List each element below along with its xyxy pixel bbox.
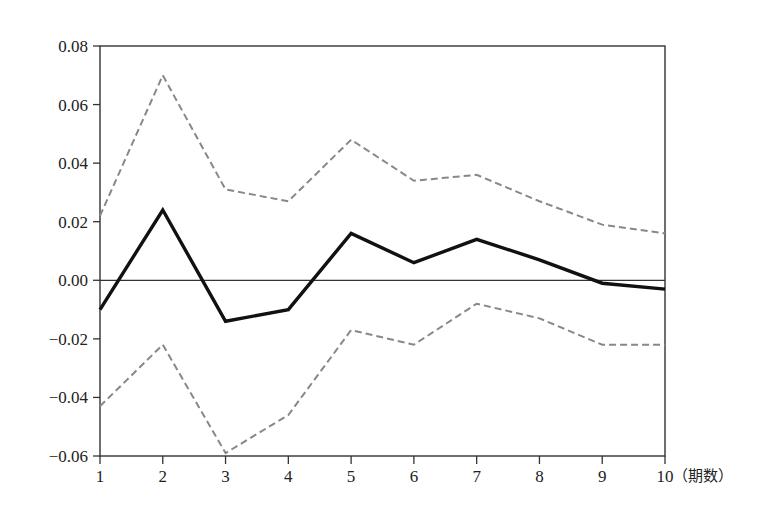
- x-tick-label: 10: [657, 467, 674, 486]
- y-tick-label: 0.00: [58, 271, 88, 290]
- y-tick-label: 0.08: [58, 37, 88, 56]
- x-tick-label: 1: [96, 467, 105, 486]
- series-response: [100, 210, 665, 321]
- series-upper-band: [100, 75, 665, 233]
- y-tick-label: −0.06: [49, 447, 88, 466]
- x-tick-label: 8: [535, 467, 544, 486]
- x-tick-label: 9: [598, 467, 607, 486]
- series-lower-band: [100, 304, 665, 453]
- x-tick-label: 5: [347, 467, 356, 486]
- x-tick-label: 4: [284, 467, 293, 486]
- x-axis-unit-label: （期数）: [673, 467, 733, 485]
- x-tick-label: 2: [159, 467, 168, 486]
- y-axis: 0.080.060.040.020.00−0.02−0.04−0.06: [49, 37, 100, 466]
- y-tick-label: 0.06: [58, 96, 88, 115]
- y-tick-label: 0.04: [58, 154, 88, 173]
- plot-area: [100, 46, 665, 456]
- y-tick-label: −0.04: [49, 388, 89, 407]
- x-tick-label: 3: [221, 467, 230, 486]
- y-tick-label: −0.02: [49, 330, 88, 349]
- impulse-response-chart: 0.080.060.040.020.00−0.02−0.04−0.06 1234…: [0, 0, 777, 523]
- y-tick-label: 0.02: [58, 213, 88, 232]
- x-tick-label: 7: [472, 467, 481, 486]
- x-tick-label: 6: [410, 467, 419, 486]
- x-axis: 12345678910: [96, 456, 674, 486]
